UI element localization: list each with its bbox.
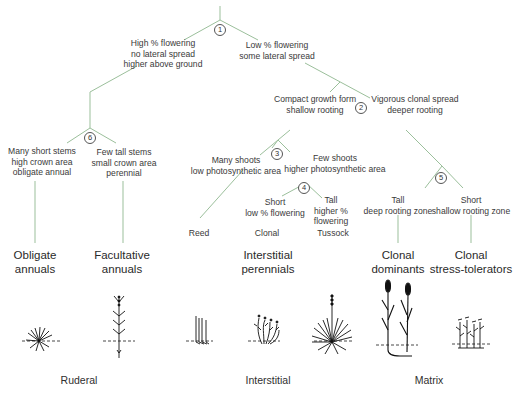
category-interstitial-perennials: Interstitial perennials xyxy=(241,248,294,276)
clonal-bush-icon xyxy=(254,315,279,344)
branch-4-right-label: Tall higher % flowering xyxy=(314,195,348,227)
group-interstitial: Interstitial xyxy=(246,375,291,386)
branch-2-right-label: Vigorous clonal spread deeper rooting xyxy=(371,94,458,115)
tussock-plant-icon xyxy=(312,295,352,354)
branch-4-left-label: Short low % flowering xyxy=(245,197,305,218)
branch-1-right-label: Low % flowering some lateral spread xyxy=(239,40,314,61)
leaf-clonal: Clonal xyxy=(255,228,279,239)
short-clonal-plant-icon xyxy=(456,317,484,348)
group-ruderal: Ruderal xyxy=(61,375,98,386)
decision-node-1: 1 xyxy=(214,24,226,36)
category-clonal-stress-tolerators: Clonal stress-tolerators xyxy=(430,248,512,276)
decision-node-5: 5 xyxy=(435,172,447,184)
branch-5-left-label: Tall deep rooting zone xyxy=(364,195,433,216)
decision-node-4: 4 xyxy=(298,182,310,194)
branch-1-left-label: High % flowering no lateral spread highe… xyxy=(124,38,203,70)
decision-node-6: 6 xyxy=(84,132,96,144)
branch-2-left-label: Compact growth form shallow rooting xyxy=(274,94,356,115)
branch-5-right-label: Short shallow rooting zone xyxy=(432,195,510,216)
category-obligate-annuals: Obligate annuals xyxy=(14,248,57,276)
category-facultative-annuals: Facultative annuals xyxy=(94,248,150,276)
tall-branched-plant-icon xyxy=(113,296,125,358)
branch-3-right-label: Few shoots higher photosynthetic area xyxy=(284,153,385,174)
reed-stems-icon xyxy=(196,316,209,344)
leaf-tussock: Tussock xyxy=(317,228,349,239)
group-matrix: Matrix xyxy=(415,375,444,386)
decision-node-2: 2 xyxy=(355,102,367,114)
leaf-reed: Reed xyxy=(189,228,210,239)
branch-6-right-label: Few tall stems small crown area perennia… xyxy=(92,147,157,179)
rosette-plant-icon xyxy=(26,327,52,351)
branch-6-left-label: Many short stems high crown area obligat… xyxy=(8,146,76,178)
branch-3-left-label: Many shoots low photosynthetic area xyxy=(191,155,281,176)
category-clonal-dominants: Clonal dominants xyxy=(371,248,424,276)
